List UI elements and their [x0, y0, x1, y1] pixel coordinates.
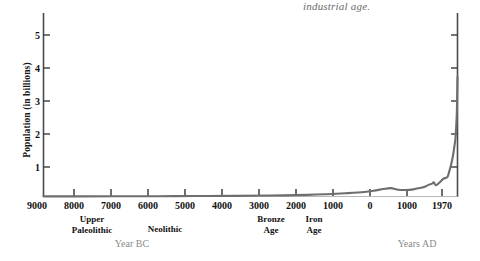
population-growth-chart: industrial age. Population (in billions)… — [0, 0, 480, 261]
population-curve — [44, 77, 458, 196]
plot-area — [0, 0, 480, 261]
y-tick-marks-left — [44, 35, 51, 167]
